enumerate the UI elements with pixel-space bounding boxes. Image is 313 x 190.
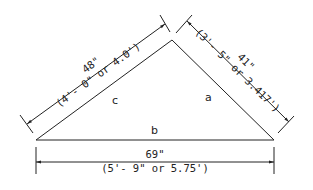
triangle-diagram: c a b 48" (4'- 0" or 4.0') 41" (3'- 5" o… [0, 0, 313, 190]
side-a-label: a [205, 91, 212, 104]
dimension-c-conversion: (4'- 0" or 4.0') [53, 40, 142, 109]
side-c-label: c [112, 94, 118, 107]
dimension-b-value: 69" [146, 148, 165, 160]
dimension-c: 48" (4'- 0" or 4.0') [20, 15, 170, 133]
extension-line [160, 15, 170, 32]
side-b-label: b [151, 124, 158, 137]
extension-line [20, 115, 33, 133]
dimension-b: 69" (5'- 9" or 5.75') [36, 147, 274, 174]
dimension-b-conversion: (5'- 9" or 5.75') [101, 162, 208, 174]
dimension-a: 41" (3'- 5" or 3.417') [176, 15, 294, 133]
